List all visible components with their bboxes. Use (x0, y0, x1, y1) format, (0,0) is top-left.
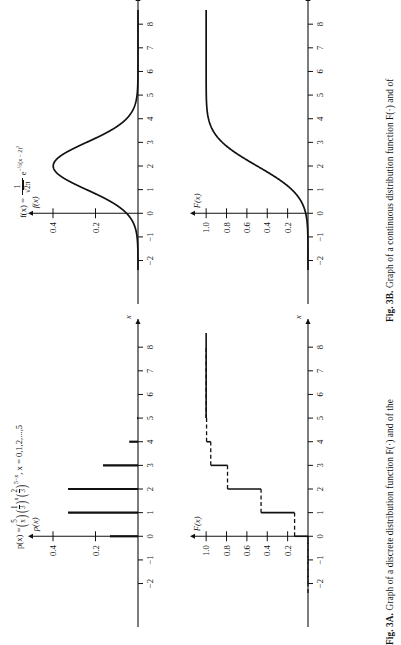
lower-x-tick-label: 4 (315, 116, 325, 121)
lower-y-tick-label: 1.0 (201, 545, 211, 556)
fig3b-exp-half: ½ (17, 164, 23, 168)
fig3a-caption-lead: Fig. 3A. (385, 613, 395, 645)
upper-x-axis-arrow (135, 0, 140, 1)
upper-y-tick-label: 0.2 (91, 222, 101, 233)
fig3b-caption-body: Graph of a continuous distribution funct… (385, 79, 395, 288)
lower-x-tick-label: 7 (315, 45, 325, 50)
upper-x-tick-label: 1 (145, 510, 155, 514)
upper-x-tick-label: 6 (145, 392, 155, 397)
lower-x-tick-label: 3 (315, 463, 325, 467)
lower-x-tick-label: −1 (315, 232, 325, 241)
lower-x-tick-label: 8 (315, 22, 325, 26)
fig3b-formula-lhs: f(x) = (18, 198, 28, 218)
fig3b-exp-base: e (18, 171, 28, 175)
upper-x-tick-label: 5 (145, 93, 155, 97)
fig3b-radicand: 2π (23, 180, 32, 189)
fig3b-pdf-panel: −2−10123456780.20.4f(x)x f(x) = 1√2π e−½… (6, 0, 186, 322)
lower-y-tick-label: 0.6 (242, 222, 252, 233)
upper-x-tick-label: 6 (145, 69, 155, 74)
lower-x-tick-label: 3 (315, 140, 325, 144)
fig3b-cdf-chart: −2−10123456780.20.40.60.81.0F(x)x (176, 0, 356, 322)
upper-x-tick-label: 0 (145, 211, 155, 215)
lower-x-tick-label: 0 (315, 534, 325, 538)
upper-y-axis-arrow (28, 534, 33, 539)
lower-y-tick-label: 0.4 (262, 545, 272, 556)
lower-x-axis-arrow (305, 0, 310, 1)
lower-x-tick-label: 4 (315, 439, 325, 444)
lower-y-tick-label: 0.6 (242, 545, 252, 556)
lower-x-tick-label: 0 (315, 211, 325, 215)
upper-x-tick-label: 0 (145, 534, 155, 538)
lower-x-tick-label: 6 (315, 69, 325, 74)
fig3a-frac2-exp: 5−x (13, 475, 19, 484)
upper-x-tick-label: 2 (145, 487, 155, 491)
upper-y-axis-label: p(x) (30, 517, 40, 532)
upper-x-tick-label: 2 (145, 164, 155, 168)
lower-x-tick-label: −2 (315, 579, 325, 588)
fig3b-exp-body: (x − 2) (17, 148, 23, 164)
upper-x-tick-label: −2 (145, 579, 155, 588)
fig3a-caption: Fig. 3A. Graph of a discrete distributio… (385, 322, 395, 645)
upper-x-tick-label: 7 (145, 368, 155, 373)
fig3a-pmf-chart: −2−10123456780.20.4p(x)x (6, 322, 186, 645)
fig3a-frac2-num: 2 (12, 489, 19, 493)
fig3a-frac1-num: 1 (12, 506, 19, 510)
fig3a-formula: p(x) =(5x)(13)x(23)5−x, x = 0,1,2,...,5 (12, 425, 28, 549)
lower-y-tick-label: 0.8 (222, 545, 232, 556)
lower-x-tick-label: 5 (315, 93, 325, 97)
fig3a-pmf-spikes (68, 418, 138, 536)
upper-x-tick-label: 8 (145, 22, 155, 26)
lower-x-tick-label: 1 (315, 187, 325, 191)
fig3a-frac2-den: 3 (19, 489, 27, 493)
upper-x-tick-label: 8 (145, 345, 155, 349)
fig3b-cdf-panel: −2−10123456780.20.40.60.81.0F(x)x (176, 0, 356, 322)
figure-page: −2−10123456780.20.4p(x)x p(x) =(5x)(13)x… (0, 0, 401, 645)
lower-y-axis-arrow (190, 211, 195, 216)
upper-x-tick-label: −2 (145, 256, 155, 265)
upper-x-tick-label: 5 (145, 416, 155, 420)
upper-x-tick-label: 1 (145, 187, 155, 191)
figure-3a: −2−10123456780.20.4p(x)x p(x) =(5x)(13)x… (0, 322, 401, 645)
lower-y-axis-label: F(x) (192, 193, 202, 209)
upper-y-tick-label: 0.4 (48, 545, 58, 556)
lower-y-tick-label: 0.2 (283, 222, 293, 233)
fig3a-frac1-den: 3 (19, 506, 27, 510)
lower-x-tick-label: −2 (315, 256, 325, 265)
fig3a-formula-lhs: p(x) = (14, 528, 24, 549)
lower-x-tick-label: 8 (315, 345, 325, 349)
fig3b-pdf-chart: −2−10123456780.20.4f(x)x (6, 0, 186, 322)
upper-x-tick-label: 7 (145, 45, 155, 50)
upper-y-tick-label: 0.2 (91, 545, 101, 556)
upper-x-tick-label: 3 (145, 463, 155, 467)
lower-x-tick-label: 5 (315, 416, 325, 420)
lower-y-tick-label: 0.2 (283, 545, 293, 556)
upper-x-tick-label: −1 (145, 232, 155, 241)
figure-3b: −2−10123456780.20.4f(x)x f(x) = 1√2π e−½… (0, 0, 401, 322)
rotated-page-stage: −2−10123456780.20.4p(x)x p(x) =(5x)(13)x… (0, 0, 401, 645)
fig3a-cdf-panel: −2−10123456780.20.40.60.81.0F(x)x (176, 322, 356, 645)
lower-y-tick-label: 0.4 (262, 222, 272, 233)
fig3b-exp-sign: − (17, 168, 23, 171)
lower-x-tick-label: 2 (315, 487, 325, 491)
lower-y-tick-label: 0.8 (222, 222, 232, 233)
lower-x-tick-label: 1 (315, 510, 325, 514)
lower-x-tick-label: 2 (315, 164, 325, 168)
upper-x-tick-label: 4 (145, 439, 155, 444)
upper-x-tick-label: −1 (145, 555, 155, 564)
lower-y-axis-label: F(x) (192, 516, 202, 532)
upper-y-tick-label: 0.4 (48, 222, 58, 233)
fig3a-binom-bottom: x (20, 519, 27, 523)
fig3a-caption-body: Graph of a discrete distribution functio… (385, 399, 395, 610)
upper-x-tick-label: 4 (145, 116, 155, 121)
fig3b-caption-lead: Fig. 3B. (385, 290, 395, 322)
lower-y-axis-arrow (190, 534, 195, 539)
fig3a-formula-domain: , x = 0,1,2,...,5 (14, 425, 24, 475)
lower-y-tick-label: 1.0 (201, 222, 211, 233)
lower-x-tick-label: 7 (315, 368, 325, 373)
fig3a-cdf-chart: −2−10123456780.20.40.60.81.0F(x)x (176, 322, 356, 645)
fig3b-formula: f(x) = 1√2π e−½(x − 2)2 (14, 146, 32, 218)
upper-x-tick-label: 3 (145, 140, 155, 144)
lower-x-tick-label: 6 (315, 392, 325, 397)
fig3a-pmf-panel: −2−10123456780.20.4p(x)x p(x) =(5x)(13)x… (6, 322, 186, 645)
fig3b-caption: Fig. 3B. Graph of a continuous distribut… (385, 0, 395, 322)
